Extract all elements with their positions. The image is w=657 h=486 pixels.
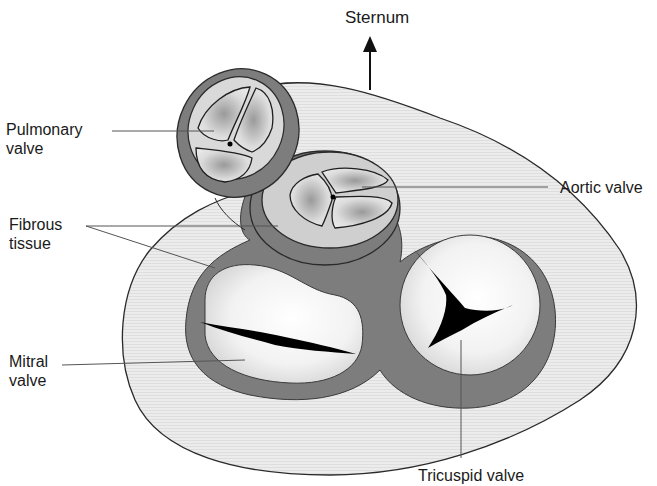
tricuspid-annulus-inner <box>400 235 540 375</box>
heart-valve-diagram: Sternum Pulmonary valve Fibrous tissue M… <box>0 0 657 486</box>
label-pulmonary-valve: Pulmonary valve <box>6 120 82 158</box>
label-mitral-valve: Mitral valve <box>9 352 48 390</box>
label-tricuspid-valve: Tricuspid valve <box>418 466 524 485</box>
label-fibrous-tissue: Fibrous tissue <box>9 215 62 253</box>
label-aortic-valve: Aortic valve <box>560 178 643 197</box>
diagram-artwork <box>0 0 657 486</box>
arrow-up-icon <box>363 36 377 90</box>
pulmonary-center <box>228 142 233 147</box>
aortic-center <box>331 195 336 200</box>
label-sternum: Sternum <box>345 8 409 27</box>
